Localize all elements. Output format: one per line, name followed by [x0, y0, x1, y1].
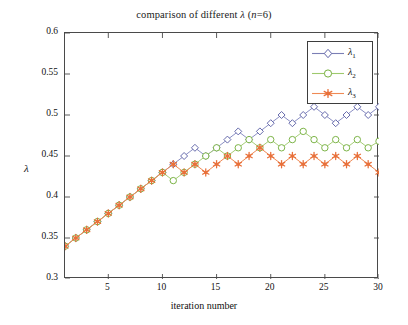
x-tick-30: 30: [363, 282, 393, 292]
data-point-marker: [354, 136, 360, 142]
data-point-marker: [365, 145, 371, 151]
data-point-marker: [365, 161, 371, 168]
data-point-marker: [333, 152, 339, 159]
data-point-marker: [213, 161, 219, 168]
y-tick-0.6: 0.6: [18, 26, 58, 36]
chart-title-text: comparison of different λ (n=6): [136, 9, 271, 20]
y-tick-0.3: 0.3: [18, 272, 58, 282]
legend-swatch-lambda3: [311, 83, 345, 104]
series-lambda_1: [65, 103, 379, 249]
x-tick-25: 25: [309, 282, 339, 292]
data-point-marker: [268, 136, 274, 142]
x-tick-20: 20: [255, 282, 285, 292]
data-point-marker: [332, 136, 338, 142]
data-point-marker: [289, 136, 295, 142]
chart-legend: λ1 λ2 λ3: [307, 41, 373, 104]
legend-item-lambda3: λ3: [308, 83, 374, 104]
legend-swatch-lambda2: [311, 63, 345, 84]
y-tick-0.35: 0.35: [18, 231, 58, 241]
data-point-marker: [311, 152, 317, 159]
y-axis-label: λ: [24, 162, 29, 174]
y-tick-0.5: 0.5: [18, 108, 58, 118]
legend-item-lambda2: λ2: [308, 63, 374, 84]
legend-swatch-lambda1: [311, 43, 345, 64]
series-lambda_2: [65, 128, 379, 249]
data-point-marker: [213, 145, 219, 151]
legend-label-lambda1: λ1: [348, 46, 356, 60]
y-tick-0.45: 0.45: [18, 149, 58, 159]
data-point-marker: [203, 169, 209, 176]
data-point-marker: [235, 161, 241, 168]
x-tick-5: 5: [92, 282, 122, 292]
x-tick-10: 10: [146, 282, 176, 292]
data-point-marker: [300, 161, 306, 168]
chart-title: comparison of different λ (n=6): [0, 9, 408, 20]
chart-figure: comparison of different λ (n=6) λ 0.30.3…: [0, 0, 408, 325]
y-tick-0.55: 0.55: [18, 67, 58, 77]
data-point-marker: [322, 161, 328, 168]
data-point-marker: [376, 138, 379, 144]
data-point-marker: [235, 145, 241, 151]
data-point-marker: [311, 136, 317, 142]
data-point-marker: [354, 152, 360, 159]
x-axis-label: iteration number: [0, 300, 408, 311]
legend-item-lambda1: λ1: [308, 43, 374, 64]
series-lambda_3: [65, 144, 379, 250]
data-point-marker: [170, 177, 176, 183]
data-point-marker: [203, 153, 209, 159]
legend-label-lambda3: λ3: [348, 86, 356, 100]
data-point-marker: [289, 152, 295, 159]
data-point-marker: [246, 136, 252, 142]
data-point-marker: [268, 152, 274, 159]
data-point-marker: [300, 128, 306, 134]
data-point-marker: [322, 145, 328, 151]
data-series-group: [65, 103, 379, 250]
data-point-marker: [246, 152, 252, 159]
y-tick-0.4: 0.4: [18, 190, 58, 200]
x-tick-15: 15: [201, 282, 231, 292]
data-point-marker: [343, 161, 349, 168]
legend-label-lambda2: λ2: [348, 66, 356, 80]
data-point-marker: [278, 145, 284, 151]
data-point-marker: [278, 161, 284, 168]
data-point-marker: [343, 145, 349, 151]
